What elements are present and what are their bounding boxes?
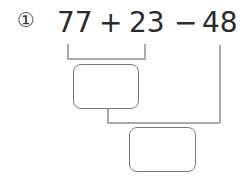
operator-plus: + [99, 6, 122, 40]
bracket-left-tick [67, 44, 69, 59]
answer-box-1[interactable] [73, 64, 139, 109]
bracket-bottom [67, 58, 146, 60]
term-2: 23 [129, 6, 165, 40]
connector-48-down [219, 45, 221, 123]
term-1: 77 [57, 6, 93, 40]
connector-horizontal [107, 122, 220, 124]
problem-number: ① [17, 8, 35, 32]
term-3: 48 [202, 6, 238, 40]
bracket-right-tick [144, 44, 146, 59]
operator-minus: − [174, 6, 197, 40]
connector-box1-down [107, 108, 109, 123]
answer-box-2[interactable] [129, 127, 196, 172]
